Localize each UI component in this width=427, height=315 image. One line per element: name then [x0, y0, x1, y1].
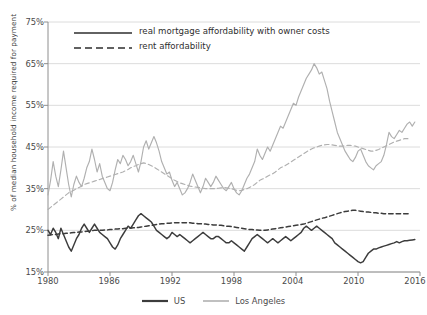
solid-line-swatch-icon: [74, 27, 132, 36]
series-line-3: [48, 210, 410, 235]
data-series: [48, 64, 415, 263]
legend-region: US Los Angeles: [0, 296, 427, 306]
us-line-swatch-icon: [142, 297, 168, 305]
dashed-line-swatch-icon: [74, 42, 132, 51]
series-line-0: [48, 64, 415, 197]
gridlines: [48, 22, 420, 272]
legend-region-label-los-angeles: Los Angeles: [235, 296, 285, 306]
legend-style-label-1: rent affordability: [139, 39, 211, 54]
legend-style-item-1[interactable]: rent affordability: [74, 39, 330, 54]
los-angeles-line-swatch-icon: [203, 297, 229, 305]
chart-container: % of median household income required fo…: [0, 0, 427, 315]
legend-style: real mortgage affordability with owner c…: [74, 24, 330, 54]
legend-region-item-los-angeles[interactable]: Los Angeles: [203, 296, 285, 306]
series-line-2: [48, 214, 415, 263]
legend-style-item-0[interactable]: real mortgage affordability with owner c…: [74, 24, 330, 39]
legend-style-label-0: real mortgage affordability with owner c…: [139, 24, 330, 39]
legend-region-item-us[interactable]: US: [142, 296, 185, 306]
legend-region-label-us: US: [174, 296, 185, 306]
